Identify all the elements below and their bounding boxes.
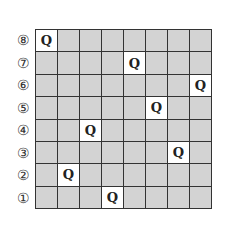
board-cell <box>80 75 101 96</box>
row-labels: ⑧ ⑦ ⑥ ⑤ ④ ③ ② ① <box>14 29 32 209</box>
board-cell <box>36 97 57 118</box>
row-label: ⑤ <box>14 97 32 120</box>
board-cell <box>58 52 79 73</box>
board-cell <box>190 52 211 73</box>
board-cell <box>36 142 57 163</box>
queen-cell: Q <box>80 120 101 141</box>
board-cell <box>124 75 145 96</box>
board-cell <box>80 187 101 208</box>
board-cell <box>146 75 167 96</box>
board-cell <box>190 120 211 141</box>
board-cell <box>124 30 145 51</box>
board-cell <box>190 30 211 51</box>
board-cell <box>146 187 167 208</box>
board-cell <box>102 52 123 73</box>
board-cell <box>146 52 167 73</box>
queen-cell: Q <box>168 142 189 163</box>
row-label: ⑥ <box>14 74 32 97</box>
queen-cell: Q <box>102 187 123 208</box>
row-label: ⑧ <box>14 29 32 52</box>
board-cell <box>124 164 145 185</box>
queen-cell: Q <box>190 75 211 96</box>
board-cell <box>190 164 211 185</box>
board-cell <box>80 30 101 51</box>
queen-icon: Q <box>107 190 118 205</box>
board-cell <box>146 30 167 51</box>
queen-cell: Q <box>124 52 145 73</box>
queen-icon: Q <box>63 167 74 182</box>
queen-icon: Q <box>129 56 140 71</box>
chess-board: QQQQQQQQ <box>35 29 212 209</box>
board-cell <box>146 164 167 185</box>
board-cell <box>190 97 211 118</box>
board-cell <box>102 142 123 163</box>
board-cell <box>146 142 167 163</box>
board-cell <box>190 142 211 163</box>
queen-icon: Q <box>151 100 162 115</box>
board-cell <box>58 97 79 118</box>
row-label: ④ <box>14 119 32 142</box>
board-cell <box>124 120 145 141</box>
board-cell <box>58 120 79 141</box>
board-cell <box>80 52 101 73</box>
board-cell <box>102 164 123 185</box>
board-cell <box>36 187 57 208</box>
queen-cell: Q <box>36 30 57 51</box>
queen-cell: Q <box>146 97 167 118</box>
row-label: ⑦ <box>14 52 32 75</box>
board-cell <box>168 187 189 208</box>
board-cell <box>168 52 189 73</box>
board-cell <box>102 75 123 96</box>
board-cell <box>168 164 189 185</box>
queen-icon: Q <box>41 33 52 48</box>
board-cell <box>102 30 123 51</box>
board-cell <box>58 187 79 208</box>
board-cell <box>190 187 211 208</box>
board-cell <box>36 120 57 141</box>
board-cell <box>80 142 101 163</box>
queen-cell: Q <box>58 164 79 185</box>
board-cell <box>168 97 189 118</box>
row-label: ③ <box>14 142 32 165</box>
board-cell <box>36 164 57 185</box>
board-cell <box>146 120 167 141</box>
board-cell <box>124 142 145 163</box>
board-cell <box>36 52 57 73</box>
board-cell <box>102 97 123 118</box>
board-cell <box>124 97 145 118</box>
board-cell <box>58 142 79 163</box>
queen-icon: Q <box>85 123 96 138</box>
board-cell <box>80 164 101 185</box>
board-cell <box>58 75 79 96</box>
queen-icon: Q <box>173 145 184 160</box>
board-cell <box>36 75 57 96</box>
board-cell <box>168 120 189 141</box>
board-cell <box>168 30 189 51</box>
row-label: ① <box>14 187 32 210</box>
board-cell <box>58 30 79 51</box>
board-cell <box>124 187 145 208</box>
board-cell <box>102 120 123 141</box>
queen-icon: Q <box>195 78 206 93</box>
board-cell <box>168 75 189 96</box>
row-label: ② <box>14 164 32 187</box>
board-cell <box>80 97 101 118</box>
